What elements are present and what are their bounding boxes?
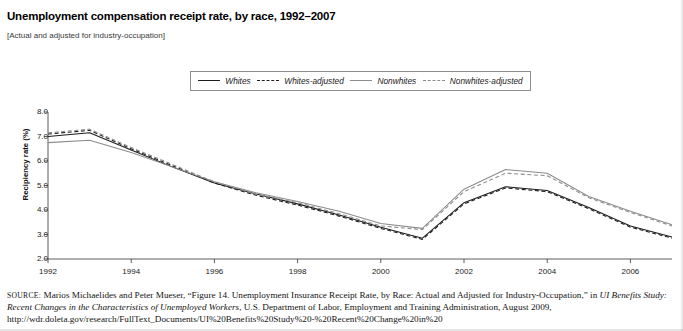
- series-line-nonwhites-adjusted: [48, 129, 672, 229]
- source-note: SOURCE: Marios Michaelides and Peter Mue…: [7, 290, 677, 325]
- series-line-whites: [48, 133, 672, 238]
- x-tick-label: 2004: [527, 267, 567, 276]
- figure-subtitle: [Actual and adjusted for industry-occupa…: [7, 31, 165, 40]
- chart-legend: Whites Whites-adjusted Nonwhites Nonwhit…: [190, 71, 531, 91]
- legend-item-whites-adjusted: Whites-adjusted: [257, 76, 344, 86]
- plot-area: Recipiency rate (%) 8.07.06.05.04.03.02.…: [0, 100, 683, 275]
- x-tick-label: 1998: [278, 267, 318, 276]
- source-text-1: Marios Michaelides and Peter Mueser, “Fi…: [41, 290, 599, 300]
- x-tick-label: 1992: [28, 267, 68, 276]
- legend-label: Nonwhites-adjusted: [450, 76, 523, 86]
- x-tick-label: 2002: [444, 267, 484, 276]
- legend-item-whites: Whites: [198, 76, 250, 86]
- legend-label: Nonwhites: [377, 76, 416, 86]
- series-line-nonwhites: [48, 140, 672, 228]
- figure-unemployment-receipt-rate-by-race: Unemployment compensation receipt rate, …: [0, 0, 683, 331]
- source-prefix: SOURCE:: [7, 291, 41, 300]
- x-tick-label: 1994: [111, 267, 151, 276]
- figure-title: Unemployment compensation receipt rate, …: [7, 10, 335, 22]
- chart-canvas: [0, 100, 683, 275]
- legend-label: Whites-adjusted: [284, 76, 344, 86]
- legend-item-nonwhites: Nonwhites: [350, 76, 416, 86]
- x-axis-ticks: 19921994199619982000200220042006: [0, 263, 683, 279]
- x-tick-label: 2000: [361, 267, 401, 276]
- legend-label: Whites: [225, 76, 250, 86]
- x-tick-label: 1996: [194, 267, 234, 276]
- series-line-whites-adjusted: [48, 130, 672, 239]
- x-tick-label: 2006: [610, 267, 650, 276]
- legend-item-nonwhites-adjusted: Nonwhites-adjusted: [423, 76, 523, 86]
